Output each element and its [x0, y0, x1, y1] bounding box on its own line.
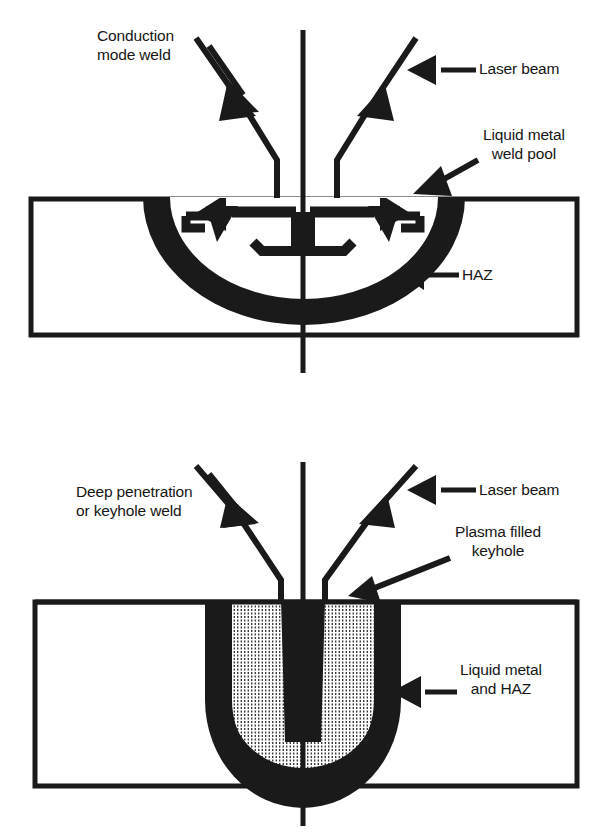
label-liquid-metal-and-haz: Liquid metaland HAZ	[460, 660, 542, 698]
label-liquid-metal-and-haz-line2: and HAZ	[471, 680, 531, 697]
label-plasma-filled-keyhole: Plasma filledkeyhole	[455, 522, 541, 560]
label-conduction-mode-weld-line2: mode weld	[97, 46, 171, 63]
label-plasma-filled-keyhole-line1: Plasma filled	[455, 523, 541, 540]
leader-arrowhead-laser-beam-bottom	[407, 475, 436, 505]
laser-beam-right-arrowhead-top	[357, 85, 394, 121]
label-deep-penetration-line1: Deep penetration	[76, 483, 193, 500]
leader-arrowhead-deep-penetration	[223, 497, 259, 528]
leader-plasma-filled-keyhole	[372, 558, 450, 589]
leader-arrowhead-liquid-metal-weld-pool	[413, 166, 452, 196]
leader-conduction-mode-weld	[209, 46, 243, 95]
label-conduction-mode-weld: Conductionmode weld	[97, 26, 174, 64]
leader-arrowhead-laser-beam-top	[407, 55, 436, 85]
label-plasma-filled-keyhole-line2: keyhole	[472, 542, 524, 559]
conduction-mode-panel	[31, 30, 577, 373]
label-liquid-metal-weld-pool: Liquid metalweld pool	[483, 125, 565, 163]
laser-welding-diagram: Conductionmode weld Laser beam Liquid me…	[0, 0, 607, 837]
laser-beam-left-bottom	[196, 466, 281, 602]
label-deep-penetration-or-keyhole-weld: Deep penetrationor keyhole weld	[76, 482, 193, 520]
label-haz-top: HAZ	[462, 265, 493, 284]
leader-arrowhead-plasma-filled-keyhole	[348, 576, 381, 603]
label-laser-beam-bottom: Laser beam	[479, 480, 559, 499]
label-liquid-metal-weld-pool-line1: Liquid metal	[483, 126, 565, 143]
label-liquid-metal-and-haz-line1: Liquid metal	[460, 661, 542, 678]
label-liquid-metal-weld-pool-line2: weld pool	[492, 145, 556, 162]
label-conduction-mode-weld-line1: Conduction	[97, 27, 174, 44]
leader-arrowhead-conduction-mode-weld	[222, 80, 259, 114]
label-laser-beam-top: Laser beam	[479, 59, 559, 78]
label-deep-penetration-line2: or keyhole weld	[76, 502, 181, 519]
